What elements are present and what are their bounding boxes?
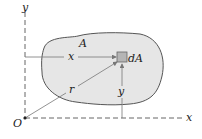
region-a (42, 33, 164, 105)
y-distance-label: y (117, 85, 125, 98)
x-axis-label: x (186, 111, 193, 124)
origin-dot (23, 116, 26, 119)
element-da (117, 52, 127, 62)
r-label: r (69, 83, 75, 96)
r-vector-lower (25, 93, 66, 118)
x-distance-label: x (68, 50, 75, 63)
y-axis-label: y (21, 1, 29, 14)
area-label: A (78, 37, 87, 50)
origin-label: O (13, 117, 22, 130)
area-moment-diagram: A dA x y r O x y (0, 0, 202, 139)
element-label: dA (128, 52, 143, 65)
